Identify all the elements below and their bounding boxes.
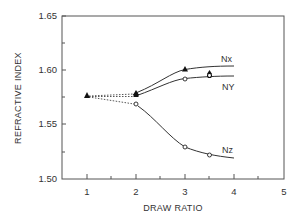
ny-marker-dr3 [183,77,187,81]
x-axis-title: DRAW RATIO [143,203,203,213]
x-tick-label: 3 [182,186,187,197]
ny-marker-dr2 [134,94,139,97]
nz-marker-dr3 [183,145,187,149]
refractive-index-chart: 1.65 1.60 1.55 1.50 1 2 3 4 5 DRAW RATIO… [0,0,304,221]
markers [84,66,212,157]
x-tick-label: 1 [84,186,89,197]
y-tick-label: 1.50 [39,173,58,184]
y-tick-labels: 1.65 1.60 1.55 1.50 [39,10,58,184]
x-tick-labels: 1 2 3 4 5 [84,186,286,197]
nz-marker-dr35 [208,153,212,157]
y-tick-label: 1.65 [39,10,58,21]
x-tick-label: 2 [133,186,138,197]
x-tick-label: 4 [231,186,236,197]
x-axis-ticks [87,174,258,179]
nx-marker-dr1 [84,92,90,98]
series-label-ny: NY [222,82,235,92]
plot-frame [62,16,284,179]
dashed-segments [89,94,134,104]
nx-dashed-line [89,94,134,96]
x-tick-label: 5 [281,186,286,197]
series-label-nz: Nz [222,145,233,155]
nz-curve [138,106,234,158]
y-axis-title: REFRACTIVE INDEX [13,52,23,144]
nz-dashed-line [89,97,134,104]
series-label-nx: Nx [221,54,232,64]
y-axis-ticks [62,16,66,152]
ny-marker-dr35 [208,74,212,78]
y-tick-label: 1.55 [39,118,58,129]
y-tick-label: 1.60 [39,64,58,75]
nz-marker-dr2 [134,102,138,106]
